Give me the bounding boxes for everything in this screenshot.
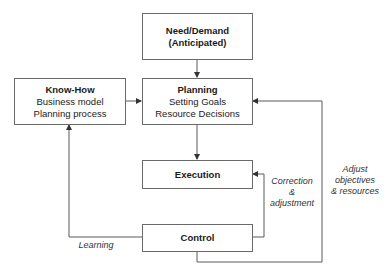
- execution-title: Execution: [175, 169, 220, 181]
- planning-line-setting-goals: Setting Goals: [169, 96, 226, 108]
- planning-title: Planning: [177, 84, 217, 96]
- correction-label-line: adjustment: [268, 198, 316, 209]
- need-demand-subtitle: (Anticipated): [168, 37, 226, 49]
- learning-label: Learning: [76, 240, 116, 251]
- need-demand-box: Need/Demand (Anticipated): [142, 13, 253, 60]
- planning-box: Planning Setting Goals Resource Decision…: [142, 78, 253, 125]
- control-box: Control: [142, 224, 253, 252]
- know-how-box: Know-How Business model Planning process: [14, 78, 126, 125]
- planning-line-resource-decisions: Resource Decisions: [155, 108, 239, 120]
- adjust-label-line: Adjust: [325, 164, 385, 175]
- adjust-objectives-label: Adjust objectives & resources: [325, 164, 385, 197]
- know-how-title: Know-How: [45, 84, 94, 96]
- need-demand-title: Need/Demand: [166, 25, 229, 37]
- adjust-label-line: objectives: [325, 175, 385, 186]
- correction-adjustment-label: Correction & adjustment: [268, 176, 316, 209]
- correction-label-line: Correction: [268, 176, 316, 187]
- control-title: Control: [181, 232, 215, 244]
- adjust-label-line: & resources: [325, 186, 385, 197]
- execution-box: Execution: [142, 160, 253, 189]
- correction-label-line: &: [268, 187, 316, 198]
- know-how-line-business-model: Business model: [36, 96, 103, 108]
- know-how-line-planning-process: Planning process: [34, 108, 107, 120]
